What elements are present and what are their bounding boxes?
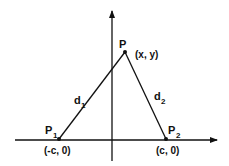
label-p1: P — [45, 124, 52, 136]
label-p1-sub: 1 — [53, 131, 58, 140]
label-d1: d — [74, 94, 81, 106]
focal-distance-diagram: P (x, y) d 1 d 2 P 1 (-c, 0) P 2 (c, 0) — [0, 0, 229, 166]
point-p2 — [164, 137, 168, 141]
label-d2-sub: 2 — [161, 97, 166, 106]
label-p2-coord: (c, 0) — [156, 145, 179, 156]
label-d1-sub: 1 — [81, 101, 86, 110]
label-d2: d — [154, 90, 161, 102]
point-p1 — [57, 137, 61, 141]
label-p2-sub: 2 — [176, 131, 181, 140]
segment-d1 — [59, 52, 125, 139]
label-p1-coord: (-c, 0) — [44, 145, 71, 156]
point-p — [123, 50, 127, 54]
label-p-coord: (x, y) — [135, 49, 158, 60]
label-p2: P — [168, 124, 175, 136]
label-p: P — [119, 38, 126, 50]
